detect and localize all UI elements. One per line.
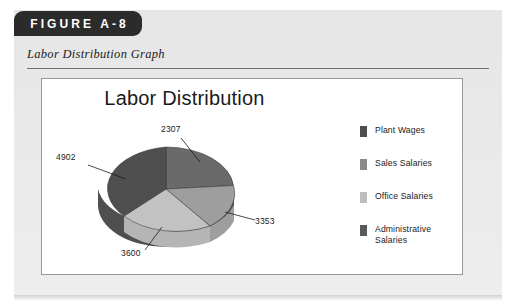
- figure-caption: Labor Distribution Graph: [27, 47, 165, 62]
- legend-swatch-icon: [360, 126, 367, 137]
- figure-page: FIGURE A-8 Labor Distribution Graph Labo…: [0, 0, 516, 308]
- legend-item-administrative-salaries[interactable]: Administrative Salaries: [360, 224, 456, 246]
- legend-label: Plant Wages: [375, 125, 425, 136]
- panel-drop-shadow: [14, 295, 502, 301]
- data-label-sales-salaries: 3353: [255, 216, 275, 226]
- legend-label: Sales Salaries: [375, 158, 432, 169]
- legend-item-sales-salaries[interactable]: Sales Salaries: [360, 158, 456, 170]
- legend-swatch-icon: [360, 225, 367, 236]
- legend-item-office-salaries[interactable]: Office Salaries: [360, 191, 456, 203]
- pie-chart-svg: [50, 117, 330, 267]
- chart-title: Labor Distribution: [42, 87, 327, 110]
- legend-swatch-icon: [360, 192, 367, 203]
- data-label-office-salaries: 3600: [121, 248, 141, 258]
- legend-swatch-icon: [360, 159, 367, 170]
- legend-label: Office Salaries: [375, 191, 433, 202]
- caption-divider: [27, 68, 489, 69]
- chart-container: Labor Distribution: [41, 78, 463, 275]
- chart-legend: Plant Wages Sales Salaries Office Salari…: [360, 125, 456, 267]
- pie-plot-area: 2307 4902 3353 3600: [50, 117, 330, 267]
- figure-number-tab: FIGURE A-8: [14, 11, 142, 36]
- data-label-plant-wages: 2307: [161, 124, 181, 134]
- figure-number-label: FIGURE A-8: [27, 18, 129, 30]
- legend-item-plant-wages[interactable]: Plant Wages: [360, 125, 456, 137]
- legend-label: Administrative Salaries: [375, 224, 456, 246]
- data-label-administrative-salaries: 4902: [56, 152, 76, 162]
